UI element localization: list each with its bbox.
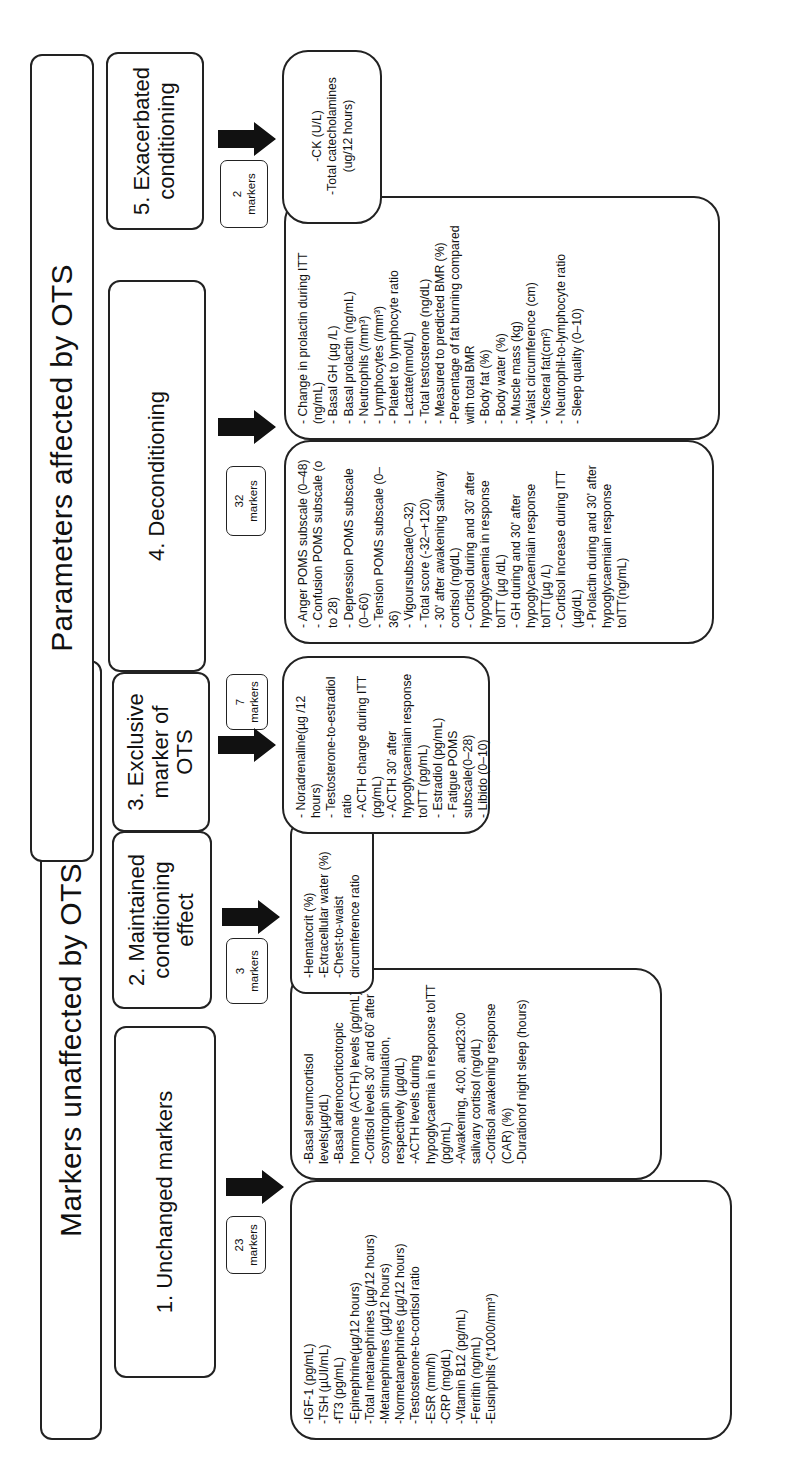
markers-count-badge: 23 markers — [226, 1216, 266, 1274]
marker-item: - Basal GH (µg /L) — [326, 210, 341, 424]
marker-item: -ACTH levels during hypoglycaemia in res… — [408, 982, 454, 1164]
category-maintained-conditioning: 2. Maintained conditioning effect — [112, 831, 212, 1009]
badge-label: markers — [244, 173, 258, 215]
category-title: 1. Unchanged markers — [153, 1091, 178, 1314]
marker-item: -Metanephrines (µg/12 hours) — [378, 1194, 393, 1424]
content-box-unchanged-a: -IGF-1 (pg/mL) -TSH (µUI/mL) -fT3 (pg/mL… — [290, 1180, 732, 1440]
category-exacerbated-conditioning: 5. Exacerbated conditioning — [106, 52, 204, 230]
marker-item: -TSH (µUI/mL) — [317, 1194, 332, 1424]
marker-item: - Body water (%) — [494, 210, 509, 424]
marker-item: -Waist circumference (cm) — [524, 210, 539, 424]
marker-item: - Visceral fat(cm²) — [539, 210, 554, 424]
markers-count-badge: 32 markers — [226, 466, 266, 536]
marker-item: - Prolactin during and 30' after hypogly… — [585, 454, 631, 628]
marker-item: - Neutrophils (/mm³) — [357, 210, 372, 424]
marker-item: - Depression POMS subscale (0–60) — [342, 454, 372, 628]
marker-item: -Basal serumcortisol levels(µg/dL) — [302, 982, 332, 1164]
category-unchanged-markers: 1. Unchanged markers — [114, 1026, 216, 1378]
marker-item: -Total catecholamines (ug/12 hours) — [325, 64, 355, 208]
marker-item: -Vitamin B12 (pg/mL) — [454, 1194, 469, 1424]
marker-item: - Change in prolactin during ITT (ng/mL) — [296, 210, 326, 424]
marker-list: -Basal serumcortisol levels(µg/dL) -Basa… — [302, 982, 530, 1164]
marker-item: -Testosterone-to-cortisol ratio — [408, 1194, 423, 1424]
badge-label: markers — [247, 681, 261, 723]
category-title: 4. Deconditioning — [145, 391, 170, 561]
marker-item: -Cortisol levels 30' and 60' after cosyn… — [363, 982, 409, 1164]
arrow-down-icon — [218, 122, 276, 156]
content-box-unchanged-b: -Basal serumcortisol levels(µg/dL) -Basa… — [290, 968, 662, 1180]
marker-item: - Total testosterone (ng/dL) — [418, 210, 433, 424]
header-unaffected-text: Markers unaffected by OTS — [54, 863, 88, 1237]
category-exclusive-marker: 3. Exclusive marker of OTS — [112, 672, 210, 832]
category-title: 5. Exacerbated conditioning — [130, 62, 179, 220]
marker-item: - Vigoursubscale(0–32) — [402, 454, 417, 628]
badge-count: 7 — [233, 699, 247, 705]
marker-item: - Cortisol during and 30' after hypoglyc… — [463, 454, 509, 628]
marker-item: - Libido (0–10) — [476, 670, 491, 818]
badge-label: markers — [247, 950, 261, 992]
marker-item: - Neutrophil-to-lymphocyte ratio — [554, 210, 569, 424]
marker-item: - Anger POMS subscale (0–48) — [296, 454, 311, 628]
marker-item: - Testosterone-to-estradiol ratio — [324, 670, 354, 818]
content-box-maintained: -Hematocrit (%) -Extracellular water (%)… — [290, 819, 374, 994]
marker-item: - Noradrenaline(µg /12 hours) — [294, 670, 324, 818]
marker-item: - Confusion POMS subscale (o to 28) — [311, 454, 341, 628]
arrow-down-icon — [226, 1170, 284, 1204]
marker-item: -Ferritin (ng/mL) — [469, 1194, 484, 1424]
marker-item: -Extracellular water (%) — [317, 833, 332, 978]
marker-item: - ACTH change during ITT (pg/mL) — [355, 670, 385, 818]
marker-item: - Lymphocytes (/mm³) — [372, 210, 387, 424]
marker-item: -Cortisol awakening response (CAR) (%) — [484, 982, 514, 1164]
content-box-deconditioning-a: - Anger POMS subscale (0–48) - Confusion… — [284, 440, 714, 644]
category-title: 3. Exclusive marker of OTS — [124, 682, 198, 822]
marker-list: -IGF-1 (pg/mL) -TSH (µUI/mL) -fT3 (pg/mL… — [302, 1194, 500, 1424]
marker-item: -Chest-to-waist circumference ratio — [332, 833, 362, 978]
marker-item: - Measured to predicted BMR (%) — [433, 210, 448, 424]
markers-count-badge: 7 markers — [226, 674, 268, 730]
ots-diagram: Markers unaffected by OTS Parameters aff… — [0, 0, 790, 1474]
marker-item: -Total metanephrines (µg/12 hours) — [363, 1194, 378, 1424]
markers-count-badge: 2 markers — [220, 160, 268, 228]
marker-list: -CK (U/L) -Total catecholamines (ug/12 h… — [310, 64, 356, 208]
marker-item: - 30' after awakening salivary cortisol … — [433, 454, 463, 628]
badge-count: 32 — [232, 495, 246, 508]
marker-item: -IGF-1 (pg/mL) — [302, 1194, 317, 1424]
marker-list: -Hematocrit (%) -Extracellular water (%)… — [302, 833, 363, 978]
arrow-down-icon — [218, 728, 276, 762]
badge-label: markers — [246, 1224, 260, 1266]
marker-list: - Anger POMS subscale (0–48) - Confusion… — [296, 454, 630, 628]
marker-item: - Tension POMS subscale (0–36) — [372, 454, 402, 628]
marker-item: -Basal adrenocorticotropic hormone (ACTH… — [332, 982, 362, 1164]
marker-item: - GH during and 30' after hypoglycaemiai… — [509, 454, 555, 628]
arrow-down-icon — [222, 900, 280, 934]
marker-item: - Fatigue POMS subscale(0–28) — [446, 670, 476, 818]
badge-count: 3 — [233, 968, 247, 974]
badge-count: 2 — [230, 191, 244, 197]
marker-item: -Eusinphils (*1000/mm³) — [484, 1194, 499, 1424]
marker-item: - Total score (-32–+120) — [418, 454, 433, 628]
marker-item: - Cortisol increase during ITT (µg/dL) — [554, 454, 584, 628]
marker-item: -Normetanephrines (µg/12 hours) — [393, 1194, 408, 1424]
content-box-exclusive: - Noradrenaline(µg /12 hours) - Testoste… — [282, 656, 490, 834]
marker-item: - Lactate(nmol/L) — [402, 210, 417, 424]
marker-item: -Durationof night sleep (hours) — [515, 982, 530, 1164]
marker-item: - ACTH 30' after hypoglycaemiain respons… — [385, 670, 431, 818]
badge-count: 23 — [232, 1239, 246, 1252]
header-affected-text: Parameters affected by OTS — [45, 264, 79, 651]
markers-count-badge: 3 markers — [226, 938, 268, 1004]
marker-item: -CRP (mg/dL) — [439, 1194, 454, 1424]
marker-item: - Platelet to lymphocyte ratio — [387, 210, 402, 424]
marker-item: - Muscle mass (kg) — [509, 210, 524, 424]
category-deconditioning: 4. Deconditioning — [108, 280, 206, 672]
marker-item: - Body fat (%) — [478, 210, 493, 424]
marker-item: - Estradiol (pg/mL) — [431, 670, 446, 818]
marker-item: -Epinephrine(µg/12 hours) — [348, 1194, 363, 1424]
header-parameters-affected: Parameters affected by OTS — [30, 54, 94, 862]
content-box-exacerbated: -CK (U/L) -Total catecholamines (ug/12 h… — [282, 50, 382, 224]
badge-label: markers — [246, 480, 260, 522]
marker-item: - Sleep quality (0–10) — [570, 210, 585, 424]
marker-item: -ESR (mm/h) — [424, 1194, 439, 1424]
marker-item: -fT3 (pg/mL) — [332, 1194, 347, 1424]
marker-list: - Noradrenaline(µg /12 hours) - Testoste… — [294, 670, 492, 818]
arrow-down-icon — [218, 410, 276, 444]
